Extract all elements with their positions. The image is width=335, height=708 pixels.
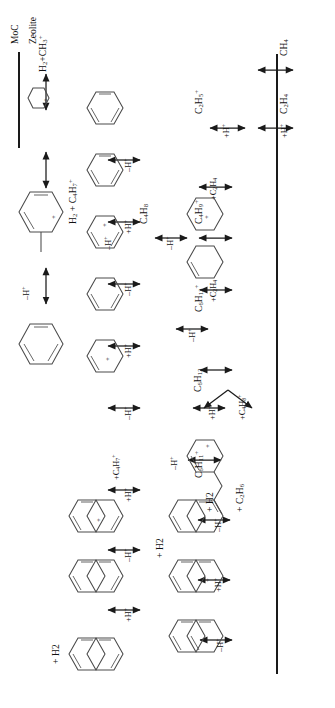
right-plus-h2-mid: + H2 (156, 538, 166, 558)
cyclohexene-ring-2: + (87, 340, 123, 372)
middle-plus-h-d: +H+ (124, 220, 133, 234)
right-plus-h2-top: + H2 (52, 644, 62, 664)
reagent-minus-h-c6h13: –H+ (188, 328, 197, 342)
figure-rotator: + + + (0, 0, 335, 708)
reagent-minus-h-c6h11: –H+ (170, 456, 179, 470)
product-h2: + H2 (206, 492, 216, 512)
species-c4h9-cation: C4H9+ (194, 200, 205, 224)
benzene-ring-middle-lower (87, 92, 123, 124)
reaction-scheme-canvas: + + + (0, 0, 335, 708)
middle-plus-c4h7: +C4H7+ (112, 454, 122, 480)
species-c6h12: C6H12 (194, 368, 204, 392)
svg-text:+: + (50, 215, 58, 219)
right-minus-h-b: –H+ (124, 548, 133, 562)
right-plus-h-e: +H+ (214, 578, 223, 592)
species-c2h4: C2H4 (280, 94, 290, 114)
cyclohexadiene-ring-1 (87, 278, 123, 310)
catalyst-label-zeolite: Zeolite (28, 17, 38, 44)
right-minus-h-d: –H+ (214, 518, 223, 532)
middle-plus-h-b: +H+ (124, 344, 133, 358)
species-c6h13-cation: C6H13+ (194, 285, 205, 312)
species-c2h5-cation: C2H5+ (194, 90, 205, 114)
svg-text:+: + (104, 357, 112, 361)
reagent-minus-h-c4h8: –H+ (104, 236, 113, 250)
catalyst-divider-line (276, 54, 278, 674)
species-h2-ch3-cation: H2+CH3+ (38, 36, 49, 72)
species-h2-c4h7-cation: H2 + C4H7+ (68, 179, 79, 224)
benzene-ring-bottom (19, 324, 63, 364)
catalyst-label-moc: MoC (10, 24, 20, 44)
middle-minus-h-e: –H+ (124, 158, 133, 172)
naphthalenyl-cation: + (69, 500, 123, 532)
reagent-branch-plus-c4h8: +C4H8+ (238, 394, 248, 420)
catalyst-divider-short (18, 52, 20, 148)
species-c4h8: C4H8 (140, 204, 150, 224)
right-plus-h-c: +H+ (124, 608, 133, 622)
product-c2h6: + C2H6 (236, 484, 246, 512)
svg-text:+: + (95, 518, 103, 522)
svg-text:+: + (204, 578, 212, 582)
right-plus-h-a: +H+ (124, 488, 133, 502)
bottom-minus-h: –H+ (22, 286, 31, 300)
methyl-benzenium-ring: + (19, 192, 63, 252)
dihydronaphthalene (169, 620, 223, 652)
reagent-plus-c2h4-1: +C2H4 (210, 178, 219, 200)
svg-text:+: + (101, 223, 109, 227)
middle-minus-h-a: –H+ (124, 406, 133, 420)
naphthalene-ring (69, 560, 123, 592)
naphthalene-ring-final (69, 638, 123, 670)
reagent-plus-c2h4-2: +C2H4 (210, 280, 219, 302)
reagent-branch-plus-h: +H+ (208, 406, 217, 420)
reagent-plus-h-ch4: +H+ (280, 124, 289, 138)
cyclohexene-ring-1 (187, 246, 223, 278)
svg-text:+: + (204, 444, 212, 448)
cyclopropenyl-cation: + (28, 88, 50, 108)
species-ch4: CH4 (280, 39, 290, 56)
middle-minus-h-c: –H+ (124, 282, 133, 296)
reagent-minus-h-c4h9: –H+ (166, 236, 175, 250)
species-c6h11-cation: C6H11+ (194, 451, 205, 478)
reagent-plus-h-c2h4: +H+ (222, 124, 231, 138)
svg-text:+: + (42, 98, 50, 102)
right-minus-h-f: –H+ (216, 638, 225, 652)
benzene-ring-middle (87, 154, 123, 186)
